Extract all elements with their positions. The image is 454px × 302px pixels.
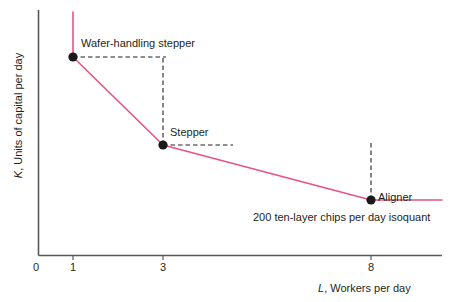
x-tick-label-1: 1 [70, 262, 76, 273]
y-axis-title-variable: K [12, 171, 24, 178]
annotation-isoquant-curve: 200 ten-layer chips per day isoquant [253, 212, 430, 223]
data-point-stepper [158, 140, 167, 149]
y-axis-title: K, Units of capital per day [13, 21, 24, 211]
y-axis-title-text: , Units of capital per day [12, 53, 24, 171]
x-tick-label-3: 3 [160, 262, 166, 273]
data-point-wafer-handling-stepper [68, 52, 77, 61]
plot-area [0, 0, 454, 302]
data-point-aligner [366, 195, 375, 204]
isoquant-figure: K, Units of capital per day L, Workers p… [0, 0, 454, 302]
annotation-aligner: Aligner [378, 192, 412, 203]
x-tick-label-0: 0 [33, 262, 39, 273]
x-tick-label-8: 8 [368, 262, 374, 273]
x-axis-title: L, Workers per day [318, 283, 411, 294]
annotation-stepper: Stepper [170, 127, 209, 138]
annotation-wafer-handling-stepper: Wafer-handling stepper [81, 38, 195, 49]
x-axis-title-text: , Workers per day [324, 282, 411, 294]
